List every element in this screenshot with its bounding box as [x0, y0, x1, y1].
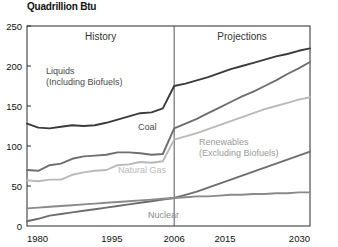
series-line-nuclear: [27, 192, 310, 208]
period-label-projections: Projections: [217, 31, 266, 42]
chart-plot-area: 05010015020025019801995200620152030Histo…: [0, 0, 338, 247]
x-axis-tick-label: 2015: [215, 233, 236, 244]
y-axis-tick-label: 100: [6, 141, 22, 152]
series-label-nuclear: Nuclear: [148, 210, 179, 220]
series-label-liquids: (Including Biofuels): [46, 77, 123, 87]
series-label-liquids: Liquids: [46, 66, 75, 76]
y-axis-tick-label: 200: [6, 61, 22, 72]
x-axis-tick-label: 2006: [164, 233, 185, 244]
y-axis-tick-label: 50: [11, 181, 22, 192]
series-label-natural: Natural Gas: [118, 165, 167, 175]
series-label-renewables: Renewables: [199, 137, 249, 147]
y-axis-tick-label: 0: [17, 221, 22, 232]
series-label-renewables: (Excluding Biofuels): [199, 148, 279, 158]
x-axis-tick-label: 2030: [289, 233, 310, 244]
period-label-history: History: [85, 31, 116, 42]
x-axis-tick-label: 1980: [27, 233, 48, 244]
x-axis-tick-label: 1995: [101, 233, 122, 244]
series-label-coal: Coal: [138, 122, 157, 132]
energy-consumption-chart: Quadrillion Btu 050100150200250198019952…: [0, 0, 338, 247]
y-axis-tick-label: 250: [6, 21, 22, 32]
y-axis-tick-label: 150: [6, 101, 22, 112]
series-line-liquids: [27, 48, 310, 128]
